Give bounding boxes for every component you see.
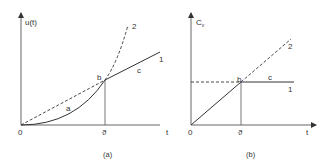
panel-b: Cv 0 ϑ t b c 1 2 (b) — [188, 13, 316, 159]
panel-b-x-label: t — [306, 128, 309, 137]
panel-b-caption: (b) — [246, 150, 256, 159]
panel-a-curve-2-label: 2 — [132, 22, 137, 31]
panel-a-segment-a: a — [66, 104, 71, 113]
panel-a-y-label: u(t) — [25, 18, 37, 27]
panel-b-segment-c: c — [268, 73, 272, 82]
panel-b-point-b: b — [237, 75, 242, 84]
panel-b-y-label: Cv — [196, 18, 205, 28]
panel-b-line-2 — [241, 39, 291, 82]
panel-a-origin-label: 0 — [18, 128, 23, 137]
panel-b-y-label-sub: v — [202, 22, 205, 28]
panel-b-curve-1-label: 1 — [288, 85, 293, 94]
figure-canvas: u(t) 0 ϑ t b a c 1 2 (a) Cv 0 ϑ t b c 1 … — [0, 0, 329, 164]
panel-a-curve-1-label: 1 — [159, 55, 164, 64]
panel-a-segment-c: c — [137, 66, 141, 75]
panel-a-dashed-line-a — [21, 80, 105, 125]
panel-a-theta-label: ϑ — [102, 128, 107, 137]
panel-a-curve-2 — [105, 25, 128, 80]
panel-b-origin-label: 0 — [188, 128, 193, 137]
panel-a: u(t) 0 ϑ t b a c 1 2 (a) — [18, 13, 169, 159]
panel-b-ramp-line — [191, 82, 241, 125]
panel-a-x-label: t — [166, 128, 169, 137]
panel-b-curve-2-label: 2 — [288, 42, 293, 51]
panel-b-theta-label: ϑ — [238, 128, 243, 137]
panel-a-point-b: b — [97, 73, 102, 82]
panel-a-caption: (a) — [103, 150, 113, 159]
